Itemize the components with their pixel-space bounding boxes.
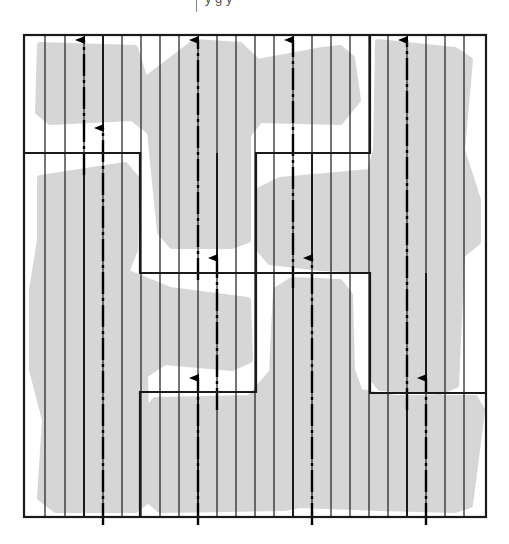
caption-leader-line [196, 0, 197, 12]
caption-fragment: y g y [205, 0, 232, 6]
diagram-canvas [0, 0, 509, 544]
tessellation-diagram: y g y [0, 0, 509, 544]
